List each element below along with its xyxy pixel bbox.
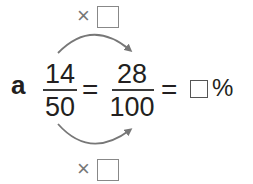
bottom-multiplier-answer-box[interactable] — [97, 159, 119, 181]
top-arrow-icon — [58, 35, 130, 53]
percent-sign: % — [212, 76, 233, 100]
fraction1-denominator: 50 — [42, 94, 78, 121]
fraction1-bar — [43, 89, 77, 91]
top-multiply-sign: × — [77, 5, 90, 27]
equals-sign-2: = — [161, 76, 177, 104]
top-multiplier-answer-box[interactable] — [97, 6, 119, 28]
fraction2-bar — [112, 89, 154, 91]
fraction1-numerator: 14 — [42, 61, 78, 88]
fraction2-denominator: 100 — [108, 94, 156, 121]
fraction2-numerator: 28 — [108, 61, 156, 88]
percent-answer-box[interactable] — [190, 80, 208, 98]
problem-label: a — [11, 72, 25, 98]
bottom-arrow-icon — [58, 124, 130, 144]
equals-sign-1: = — [82, 76, 98, 104]
bottom-multiply-sign: × — [77, 158, 90, 180]
